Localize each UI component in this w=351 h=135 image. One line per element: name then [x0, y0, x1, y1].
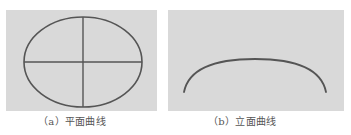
- plane-curve-panel: [6, 10, 157, 111]
- elevation-curve-panel: [168, 10, 344, 111]
- elevation-curve-arc: [184, 59, 326, 92]
- ellipse-crosshair-drawing: [6, 10, 157, 111]
- plane-curve-caption: （a）平面曲线: [38, 116, 106, 128]
- elevation-curve-caption: （b）立面曲线: [208, 116, 277, 128]
- arc-drawing: [168, 10, 344, 111]
